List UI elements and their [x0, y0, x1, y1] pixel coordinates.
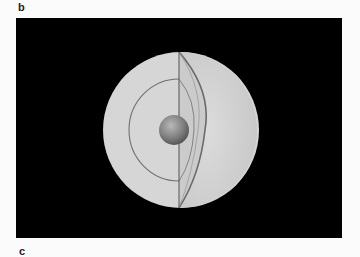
panel-label-c: c — [19, 246, 25, 257]
